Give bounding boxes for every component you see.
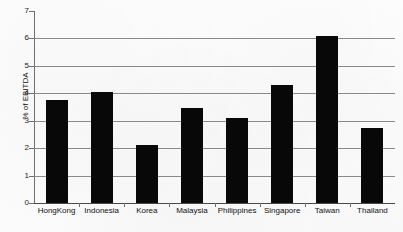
x-axis-label: Korea xyxy=(124,207,169,216)
bar xyxy=(361,128,383,203)
bar xyxy=(316,36,338,203)
bar xyxy=(46,100,68,203)
gridline xyxy=(34,176,395,177)
plot-area xyxy=(34,11,395,203)
x-axis-label: HongKong xyxy=(34,207,79,216)
y-axis-tick-label: 4 xyxy=(7,89,29,97)
gridline xyxy=(34,121,395,122)
gridline xyxy=(34,38,395,39)
gridline xyxy=(34,148,395,149)
x-axis-label: Singapore xyxy=(260,207,305,216)
x-axis-label: Thailand xyxy=(350,207,395,216)
x-axis-label: Philippines xyxy=(215,207,260,216)
x-axis-label: Indonesia xyxy=(79,207,124,216)
y-axis-tick-label: 0 xyxy=(7,199,29,207)
y-axis-tick-label: 7 xyxy=(7,7,29,15)
y-axis-tick-label: 2 xyxy=(7,144,29,152)
y-axis-tick-label: 1 xyxy=(7,172,29,180)
x-axis-label: Malaysia xyxy=(169,207,214,216)
gridline xyxy=(34,93,395,94)
bar xyxy=(271,85,293,203)
bar xyxy=(181,108,203,203)
y-axis-tick-label: 3 xyxy=(7,117,29,125)
bar xyxy=(91,92,113,203)
y-axis-tick-label: 5 xyxy=(7,62,29,70)
bar xyxy=(136,145,158,203)
bar-chart-figure: % of EBITDA 01234567 HongKongIndonesiaKo… xyxy=(0,0,403,232)
bar xyxy=(226,118,248,203)
x-axis-label: Taiwan xyxy=(305,207,350,216)
gridline xyxy=(34,66,395,67)
y-axis-tick-label: 6 xyxy=(7,34,29,42)
